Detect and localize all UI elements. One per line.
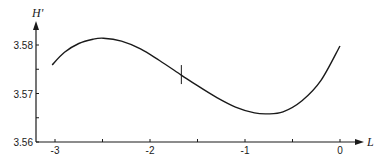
y-tick-label: 3.56: [14, 137, 34, 148]
x-tick-label: -3: [51, 145, 60, 156]
data-curve: [52, 38, 340, 114]
x-tick-label: 0: [337, 145, 343, 156]
axis-ticks: -3-2-103.563.573.58: [14, 40, 344, 156]
x-axis-arrow-icon: [355, 139, 364, 145]
y-axis-arrow-icon: [33, 21, 39, 30]
x-axis-label: L: [366, 135, 374, 149]
y-tick-label: 3.57: [14, 89, 34, 100]
chart: -3-2-103.563.573.58 H' L: [0, 0, 383, 162]
y-axis-label: H': [31, 6, 44, 20]
x-tick-label: -1: [241, 145, 250, 156]
y-tick-label: 3.58: [14, 40, 34, 51]
x-tick-label: -2: [146, 145, 155, 156]
axes: [33, 21, 364, 145]
